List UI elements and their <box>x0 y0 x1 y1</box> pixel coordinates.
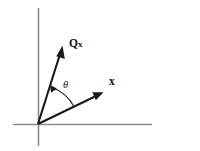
vector-diagram-figure: Qx x θ <box>0 0 200 151</box>
angle-theta-label: θ <box>63 80 68 91</box>
angle-arc-group <box>50 85 74 107</box>
vector-qx-arrowhead <box>56 46 65 59</box>
vector-x-shaft <box>38 96 96 124</box>
vector-x-label: x <box>109 76 115 88</box>
vector-qx-shaft <box>38 54 60 125</box>
angle-arc-arrowhead <box>50 85 57 93</box>
vector-qx-label-sub: x <box>78 39 83 49</box>
vector-x <box>38 92 104 124</box>
vector-qx-label-main: Q <box>69 37 78 49</box>
diagram-canvas <box>0 0 200 151</box>
vector-qx-label: Qx <box>69 38 82 50</box>
axes-group <box>13 8 152 146</box>
